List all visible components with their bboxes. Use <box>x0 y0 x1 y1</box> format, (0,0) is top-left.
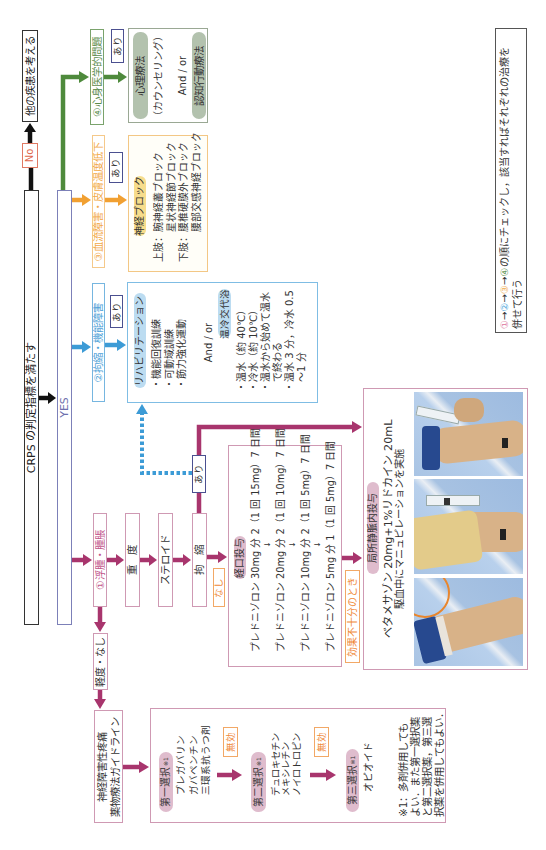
ivra-label: 局所静脈内投与 <box>368 493 378 563</box>
arrowhead <box>116 554 124 566</box>
steroid-label: ステロイド <box>160 535 171 585</box>
arrow-no-to-other-disease <box>24 123 36 143</box>
taper-step: プレドニゾロン 20mg 分 2（1 回 10mg）7 日間 <box>276 428 286 652</box>
severe-box: 重 度 <box>125 513 140 607</box>
legend-arrow: → <box>499 294 510 302</box>
insufficient-effect-label: 効果不十分のとき <box>348 577 358 657</box>
taper-step: プレドニゾロン 10mg 分 2（1 回 5mg）7 日間 <box>301 434 311 652</box>
criteria-box: CRPS の判定指標を満たす <box>24 190 39 625</box>
absent-label: なし <box>214 578 224 598</box>
drug-name: オピオイド <box>364 742 374 792</box>
photo-syringe-plunger <box>444 498 450 505</box>
ineffective-badge: 無効 <box>223 727 238 757</box>
present-label: あり <box>111 158 121 178</box>
nerve-block-list: 上肢：腕神経叢ブロック 星状神経節ブロック 下肢：腰椎硬膜外ブロック 腰部交感神… <box>153 132 204 262</box>
footnote-line: ※1：多剤併用しても <box>397 708 409 817</box>
contrast-bath-pill: 温冷交代浴 <box>218 289 231 338</box>
legend-arrow: → <box>499 311 510 319</box>
arrowhead <box>353 552 362 564</box>
footnote: ※1：多剤併用しても よい．また第一選択薬 と第二選択薬，第三選 択薬を併用して… <box>397 708 445 817</box>
arrow-yes-to-psych <box>63 71 89 190</box>
photo-tube <box>414 578 450 618</box>
footnote-ref: ※1 <box>350 756 356 765</box>
arrowhead <box>118 71 127 83</box>
mild-none-box: 軽度・なし <box>93 633 108 690</box>
block-name: 星状神経節ブロック <box>166 142 177 232</box>
drug-therapy-box: 第一選択※1 プレガバリン ガバペンチン 三環系抗うつ剤 無効 第二選択※1 デ… <box>150 708 446 823</box>
arrow-severe-to-steroid <box>140 554 157 566</box>
steroid-box: ステロイド <box>158 513 173 607</box>
second-choice-pill: 第二選択※1 <box>251 752 266 812</box>
step-arrow: ↓ <box>314 541 322 548</box>
photo-syringe <box>426 495 480 506</box>
ineffective-label: 無効 <box>317 732 327 752</box>
present-label: あり <box>112 302 122 322</box>
procedure-photo-cuff <box>414 578 523 666</box>
circulation-condition-label: ③血流障害・皮膚温度低下 <box>93 142 103 261</box>
nerve-block-row: 星状神経節ブロック <box>166 132 179 262</box>
drug-name: ノイロトロピン <box>292 733 302 796</box>
second-choice-label: 第二選択 <box>254 767 264 807</box>
footnote-line: と第二選択薬，第三選 <box>421 708 433 817</box>
legend-box: ①→②→③→④の順にチェックし，該当すればそれぞれの治療を 併せて行う <box>495 28 527 333</box>
bath-item: ・温水から始めて温水 <box>260 290 272 392</box>
arrow-oral-to-ivra <box>342 552 362 564</box>
oral-label: 経口投与 <box>235 538 245 578</box>
drug-name: 三環系抗うつ剤 <box>200 725 213 795</box>
arrowhead <box>94 622 106 632</box>
taper-step: プレドニゾロン 5mg 分 1（1 回 5mg）7 日間 <box>326 441 336 652</box>
arrowhead <box>352 421 362 433</box>
nerve-block-pill: 神経ブロック <box>134 176 146 236</box>
psych-present-badge: あり <box>111 29 124 63</box>
arrowhead <box>82 194 91 206</box>
legend-text: の順にチェックし，該当すればそれぞれの治療を <box>499 47 510 267</box>
ivra-note: 駆血中にマニュピレーションを実施 <box>395 389 405 669</box>
bath-item: ・温水（約 40℃） <box>236 290 248 392</box>
arrowhead <box>117 339 126 351</box>
arrowhead <box>94 699 106 709</box>
photo-hand <box>454 398 484 422</box>
ineffective-badge: 無効 <box>314 727 329 757</box>
arrowhead <box>118 194 127 206</box>
photo-skin-marking <box>500 529 506 540</box>
arrow-steroid-to-contracture <box>173 554 191 566</box>
insufficient-effect-badge: 効果不十分のとき <box>345 570 360 663</box>
step-arrow: ↓ <box>289 541 297 548</box>
arrow-criteria-to-yes <box>39 392 56 404</box>
criteria-label: CRPS の判定指標を満たす <box>26 342 37 473</box>
arrow-mild-to-guideline <box>94 690 106 709</box>
ivra-pill: 局所静脈内投与 <box>367 482 379 574</box>
step-arrow: ↓ <box>264 541 272 548</box>
rehab-item: ・筋力強化運動 <box>176 319 189 389</box>
arrow-contracture-to-rehab <box>105 339 126 351</box>
arrow-yes-to-contracture <box>72 341 91 353</box>
arrowhead <box>183 554 191 566</box>
drug-name: プレガバリン <box>175 725 188 795</box>
taper-step: プレドニゾロン 30mg 分 2（1 回 15mg）7 日間 <box>251 428 261 652</box>
contrast-bath-label: 温冷交代浴 <box>220 289 230 339</box>
bath-item: で終わる <box>272 290 284 392</box>
rehab-item: ・機能回復訓練 <box>151 319 164 389</box>
guideline-line-1: 神経障害性疼痛 <box>97 732 107 802</box>
third-choice-pill: 第三選択※1 <box>346 749 359 812</box>
edema-condition-box: ①浮腫・腫脹 <box>93 513 107 607</box>
arrow-psych-to-therapy <box>104 71 127 83</box>
oral-steroid-box: 経口投与 プレドニゾロン 30mg 分 2（1 回 15mg）7 日間 ↓ プレ… <box>228 445 342 667</box>
second-choice-drugs: デュロキセチン メキシレチン ノイロトロピン <box>271 733 302 796</box>
mild-none-label: 軽度・なし <box>96 637 106 687</box>
ineffective-label: 無効 <box>226 732 236 752</box>
edema-condition-label: ①浮腫・腫脹 <box>95 530 106 589</box>
limb-label: 上肢： <box>153 232 166 262</box>
arrowhead <box>136 404 148 414</box>
other-disease-box: 他の疾患を考える <box>22 30 38 122</box>
bath-item: ・温水 3 分，冷水 0.5 <box>284 290 296 392</box>
contracture-check-label: 拘 縮 <box>194 545 205 575</box>
psych-condition-label: ④心身医学的問題 <box>92 37 103 116</box>
arrowhead <box>218 551 227 563</box>
and-or-label: And / or <box>178 29 188 122</box>
photo-bandage <box>414 509 483 570</box>
arrowhead <box>139 761 149 773</box>
ivra-box: 局所静脈内投与 ベタメサゾン 20mg+1%リドカイン 20mL 駆血中にマニュ… <box>363 388 528 670</box>
procedure-photo-bandage <box>414 479 523 574</box>
legend-arrow: → <box>499 276 510 284</box>
